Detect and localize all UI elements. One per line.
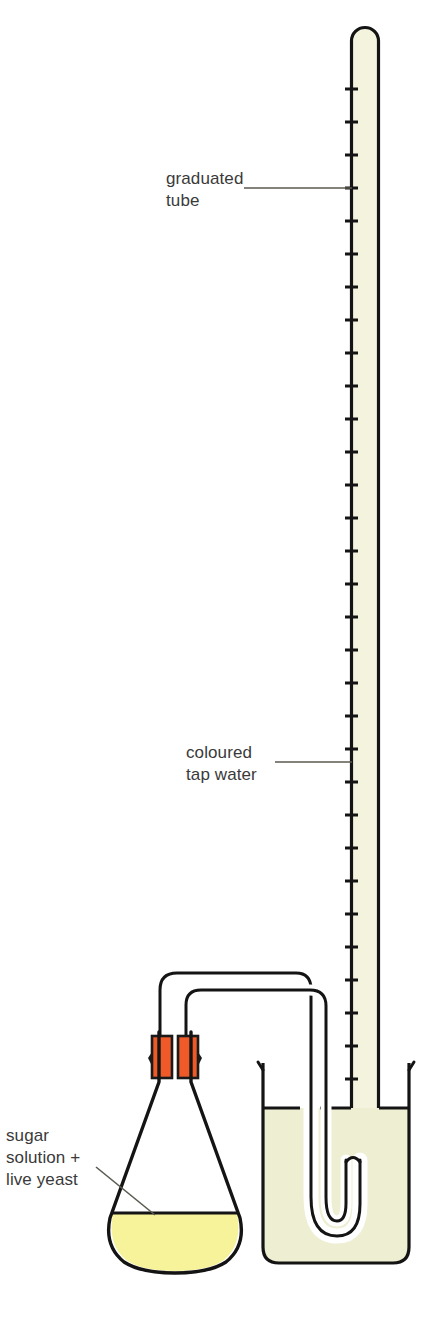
sugar-solution-label-line1: sugar [6, 1126, 49, 1145]
sugar-solution-label-line3: live yeast [6, 1170, 78, 1189]
apparatus-diagram: graduated tube coloured tap water sugar … [0, 0, 431, 1320]
sugar-solution-label-line2: solution + [6, 1148, 80, 1167]
bung-left-wedge [148, 1052, 152, 1066]
label-graduated-tube: graduated tube [166, 169, 352, 210]
delivery-tube [160, 973, 360, 1236]
label-coloured-tap-water: coloured tap water [186, 743, 352, 784]
bung-right-wedge [198, 1052, 202, 1066]
coloured-tap-water-label-line1: coloured [186, 743, 252, 762]
bung-group [148, 1036, 202, 1078]
coloured-tap-water-label-line2: tap water [186, 765, 257, 784]
conical-flask [109, 1032, 242, 1273]
bung-left [152, 1036, 172, 1078]
bung-right [178, 1036, 198, 1078]
flask-liquid-fill [112, 1213, 239, 1271]
label-sugar-solution-live-yeast: sugar solution + live yeast [6, 1126, 155, 1215]
diagram-canvas: graduated tube coloured tap water sugar … [0, 0, 431, 1320]
graduated-tube [345, 28, 379, 1206]
graduated-tube-label-line1: graduated [166, 169, 243, 188]
graduated-tube-label-line2: tube [166, 191, 200, 210]
